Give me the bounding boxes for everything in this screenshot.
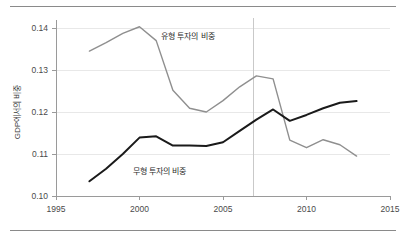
y-tick-label: 0.13: [31, 65, 48, 75]
y-tick-label: 0.12: [31, 107, 48, 117]
tick-marks: [52, 28, 390, 200]
x-tick-label: 2000: [130, 204, 149, 214]
y-axis-title: GDP에서의 비중: [12, 85, 22, 140]
x-tick-label: 2015: [381, 204, 400, 214]
series-line-2: [89, 101, 356, 181]
data-series: [89, 27, 356, 182]
chart-figure: 0.100.110.120.130.14 1995200020052010201…: [0, 0, 406, 237]
series-annotation-2: 무형 투자의 비중: [133, 166, 186, 176]
series-line-1: [89, 27, 356, 156]
series-annotation-1: 유형 투자의 비중: [161, 31, 214, 41]
y-tick-label: 0.14: [31, 23, 48, 33]
grid-lines: [56, 28, 390, 196]
x-tick-labels: 19952000200520102015: [47, 204, 400, 214]
x-tick-label: 1995: [47, 204, 66, 214]
y-tick-labels: 0.100.110.120.130.14: [31, 23, 48, 201]
line-chart-plot: 0.100.110.120.130.14 1995200020052010201…: [0, 0, 406, 237]
x-tick-label: 2010: [297, 204, 316, 214]
y-tick-label: 0.11: [32, 149, 48, 159]
y-tick-label: 0.10: [31, 191, 48, 201]
x-tick-label: 2005: [214, 204, 233, 214]
